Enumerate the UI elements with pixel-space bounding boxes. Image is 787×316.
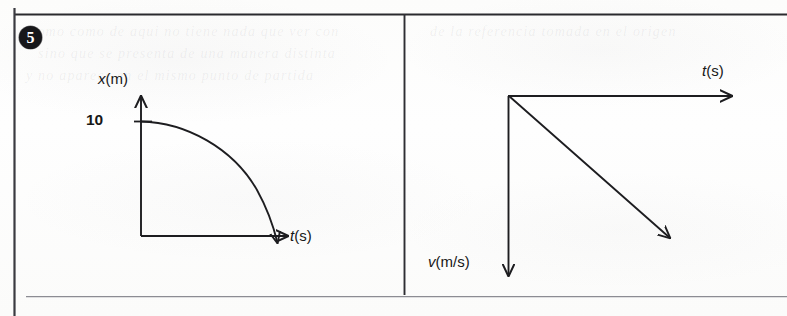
velocity-time-line bbox=[509, 96, 670, 238]
figure-page: como como de aqui no tiene nada que ver … bbox=[0, 0, 787, 316]
question-number-badge: 5 bbox=[19, 26, 42, 49]
right-graph-group bbox=[508, 96, 732, 276]
figure-drawing-layer bbox=[0, 0, 787, 316]
position-time-curve bbox=[141, 122, 278, 244]
left-graph-group bbox=[134, 96, 288, 243]
